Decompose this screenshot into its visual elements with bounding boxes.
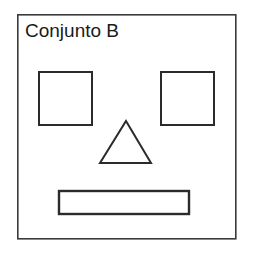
rectangle-bottom: [59, 191, 189, 214]
set-title: Conjunto B: [25, 20, 119, 42]
square-left: [39, 72, 92, 125]
square-right: [161, 72, 214, 125]
set-diagram-canvas: Conjunto B: [0, 0, 253, 255]
